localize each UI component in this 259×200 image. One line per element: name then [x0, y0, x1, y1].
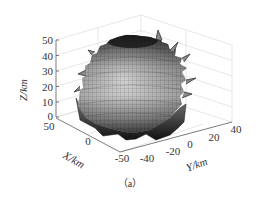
dome-surface: [70, 30, 196, 140]
svg-text:20: 20: [42, 81, 54, 93]
svg-text:50: 50: [42, 34, 54, 46]
svg-text:0: 0: [85, 135, 91, 147]
y-axis-label: Y/km: [184, 155, 209, 174]
svg-text:40: 40: [231, 123, 243, 135]
z-ticks: 50 40 30 20 10 0: [42, 34, 54, 122]
z-axis-label: Z/km: [17, 79, 29, 101]
svg-text:20: 20: [209, 131, 221, 143]
svg-text:50: 50: [44, 120, 56, 132]
figure-caption: （a）: [118, 178, 142, 189]
x-axis-label: X/km: [60, 148, 86, 170]
svg-text:-40: -40: [140, 152, 155, 164]
svg-text:-20: -20: [166, 145, 181, 157]
svg-text:40: 40: [42, 50, 54, 62]
svg-text:30: 30: [42, 65, 54, 77]
svg-text:10: 10: [42, 96, 54, 108]
surface-chart: 50 40 30 20 10 0 50 0 -50 -40 -20 0 20 4…: [0, 0, 259, 200]
svg-text:0: 0: [187, 138, 193, 150]
svg-text:-50: -50: [115, 152, 130, 164]
